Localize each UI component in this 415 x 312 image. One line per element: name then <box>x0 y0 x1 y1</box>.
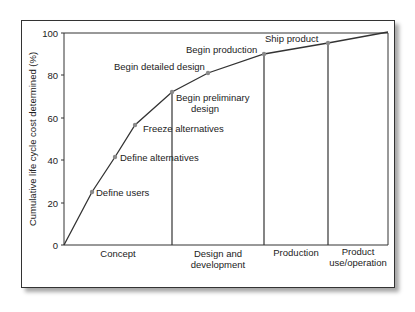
phase-use-1: Product <box>342 246 375 257</box>
y-tick-80: 80 <box>47 70 58 81</box>
phase-use-2: use/operation <box>329 257 387 268</box>
cost-curve <box>64 32 388 245</box>
phase-design-1: Design and <box>194 248 242 259</box>
phase-design-2: development <box>191 259 246 270</box>
label-freeze-alternatives: Freeze alternatives <box>143 123 224 134</box>
y-tick-20: 20 <box>47 198 58 209</box>
label-begin-preliminary-2: design <box>191 103 219 114</box>
label-define-alternatives: Define alternatives <box>120 152 199 163</box>
phase-production: Production <box>273 247 318 258</box>
y-tick-40: 40 <box>47 155 58 166</box>
label-begin-production: Begin production <box>186 44 257 55</box>
life-cycle-cost-chart: 0 20 40 60 80 100 Cumulative life cycle … <box>0 0 415 312</box>
phase-concept: Concept <box>100 248 136 259</box>
label-begin-preliminary-1: Begin preliminary <box>176 92 250 103</box>
y-tick-60: 60 <box>47 113 58 124</box>
y-axis-label: Cumulative life cycle cost determined (%… <box>27 52 38 226</box>
y-tick-0: 0 <box>53 240 58 251</box>
label-define-users: Define users <box>96 187 150 198</box>
y-tick-100: 100 <box>42 28 58 39</box>
label-ship-product: Ship product <box>265 33 319 44</box>
label-begin-detailed-design: Begin detailed design <box>114 61 205 72</box>
